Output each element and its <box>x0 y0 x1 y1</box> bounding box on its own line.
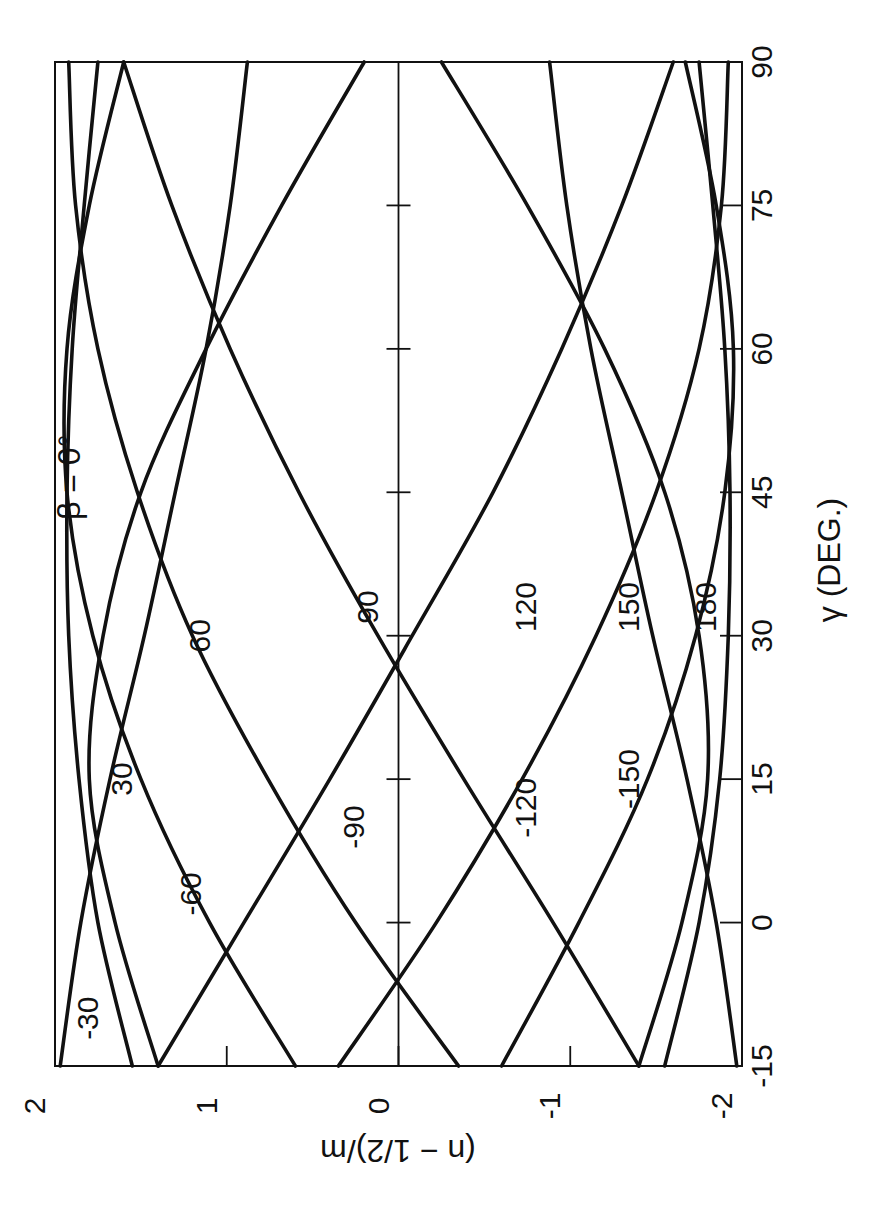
x-tick-label: 15 <box>745 762 778 795</box>
y-tick-label: -2 <box>705 1093 738 1120</box>
x-tick-label: 60 <box>745 332 778 365</box>
series-curve-3 <box>89 62 364 1066</box>
y-axis-title: (n − 1/2)/m <box>320 1133 476 1169</box>
x-tick-label: 0 <box>745 914 778 931</box>
series-curve-11 <box>550 62 737 1066</box>
x-tick-label: 45 <box>745 476 778 509</box>
x-tick-label: 90 <box>745 45 778 78</box>
x-axis-title: γ (DEG.) <box>811 498 847 622</box>
beta-annotation: β = 0° <box>51 435 87 520</box>
curve-label: 120 <box>509 582 542 632</box>
series-curve-8 <box>441 62 708 1066</box>
series-curve-7 <box>69 62 459 1066</box>
curve-label: -60 <box>174 872 207 915</box>
curve-label: -90 <box>337 805 370 848</box>
curve-label: -120 <box>509 778 542 838</box>
curve-label: -150 <box>612 749 645 809</box>
series-curve-2 <box>158 62 673 1066</box>
curve-label: 180 <box>689 582 722 632</box>
y-tick-label: -1 <box>533 1093 566 1120</box>
curve-label: 30 <box>105 762 138 795</box>
curve-label: 90 <box>351 590 384 623</box>
plot-area <box>55 62 742 1066</box>
y-tick-label: 0 <box>362 1098 395 1115</box>
chart: -3030-6060-9090-120120-150150180 -150153… <box>0 0 886 1207</box>
curve-label: 60 <box>183 619 216 652</box>
x-tick-label: 75 <box>745 189 778 222</box>
y-tick-label: 2 <box>18 1098 51 1115</box>
curve-label: 150 <box>612 582 645 632</box>
y-tick-label: 1 <box>190 1098 223 1115</box>
x-tick-label: -15 <box>745 1044 778 1087</box>
curve-label: -30 <box>71 997 104 1040</box>
x-tick-label: 30 <box>745 619 778 652</box>
curve-labels: -3030-6060-9090-120120-150150180 <box>71 582 722 1040</box>
